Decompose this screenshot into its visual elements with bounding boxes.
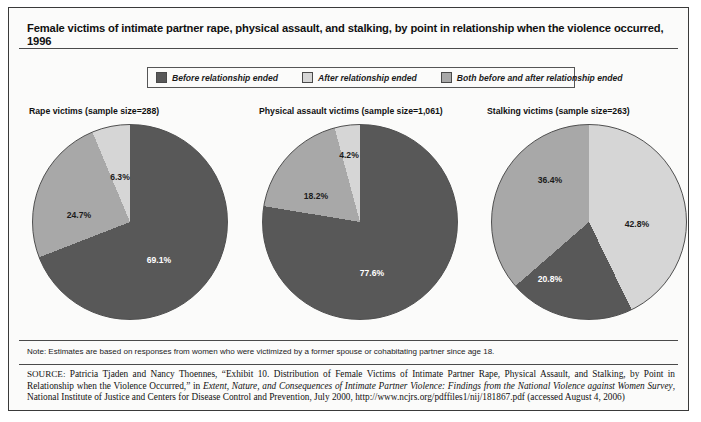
pie-slice-label-physical-both: 18.2% [304,191,328,201]
pie-slice-label-rape-both: 24.7% [67,210,91,220]
pie-slice-label-stalking-both: 36.4% [538,175,562,185]
pie-title-rape: Rape victims (sample size=288) [29,106,159,116]
chart-legend: Before relationship ended After relation… [147,67,575,88]
legend-swatch-before [156,72,167,83]
title-divider [19,48,678,49]
legend-item-after: After relationship ended [302,68,417,87]
legend-swatch-both [441,72,452,83]
pie-chart-physical-assault [262,124,458,320]
pie-slice-label-rape-after: 6.3% [110,172,130,182]
figure-note: Note: Estimates are based on responses f… [27,347,672,357]
pie-slice-label-stalking-before: 20.8% [538,274,562,284]
source-label: SOURCE: [27,369,65,379]
legend-label-after: After relationship ended [318,73,417,83]
source-text-italic: Extent, Nature, and Consequences of Inti… [203,381,673,391]
legend-swatch-after [302,72,313,83]
pie-chart-stalking [491,124,687,320]
figure-title: Female victims of intimate partner rape,… [27,22,672,48]
figure-frame: Female victims of intimate partner rape,… [8,7,689,411]
source-divider [19,364,678,365]
pie-title-stalking: Stalking victims (sample size=263) [487,106,630,116]
legend-item-both: Both before and after relationship ended [441,68,623,87]
pie-slice-label-physical-before: 77.6% [360,268,384,278]
pie-title-physical-assault: Physical assault victims (sample size=1,… [259,106,443,116]
note-divider [19,340,678,341]
pie-slice-label-rape-before: 69.1% [147,255,171,265]
pie-slice-label-physical-after: 4.2% [339,150,359,160]
legend-label-before: Before relationship ended [172,73,278,83]
pie-slice-label-stalking-after: 42.8% [625,219,649,229]
pie-chart-rape [32,124,228,320]
legend-label-both: Both before and after relationship ended [457,73,623,83]
figure-source: SOURCE: Patricia Tjaden and Nancy Thoenn… [27,369,675,404]
legend-item-before: Before relationship ended [156,68,278,87]
